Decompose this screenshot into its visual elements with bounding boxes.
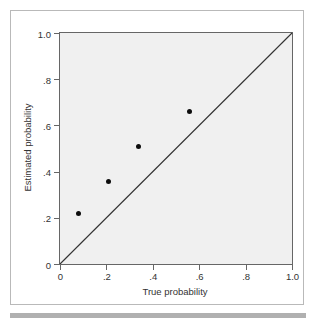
x-axis-tick-label: 0 [58, 271, 63, 282]
y-axis-label-text: Estimated probability [22, 103, 33, 191]
figure-card: Estimated probability 0.2.4.6.81.0 0.2.4… [10, 10, 304, 305]
y-axis-tick-label: .8 [43, 74, 51, 85]
data-point [76, 211, 81, 216]
bottom-rule-divider [10, 313, 306, 318]
y-axis-tick: .8 [54, 79, 60, 80]
x-axis-label: True probability [59, 286, 291, 297]
x-axis-tick: .6 [199, 264, 200, 270]
x-axis-tick-label: .4 [149, 271, 157, 282]
x-axis-tick-label: .8 [242, 271, 250, 282]
y-axis-tick: 1.0 [54, 33, 60, 34]
y-axis-tick-label: 1.0 [38, 28, 51, 39]
y-axis-tick-label: .6 [43, 120, 51, 131]
x-axis-tick: .2 [106, 264, 107, 270]
x-axis-tick: .8 [246, 264, 247, 270]
x-axis-tick: 1.0 [292, 264, 293, 270]
y-axis-tick: .4 [54, 172, 60, 173]
scatter-chart: Estimated probability 0.2.4.6.81.0 0.2.4… [11, 11, 305, 304]
x-axis-tick-label: .6 [196, 271, 204, 282]
x-axis-tick-label: .2 [103, 271, 111, 282]
y-axis-tick: .6 [54, 125, 60, 126]
identity-reference-line [60, 33, 292, 264]
y-axis-tick-label: 0 [46, 259, 51, 270]
x-axis-tick-label: 1.0 [286, 271, 299, 282]
y-axis-tick-label: .4 [43, 167, 51, 178]
x-axis-tick: .4 [153, 264, 154, 270]
y-axis-label: Estimated probability [21, 32, 33, 263]
y-axis-tick: .2 [54, 218, 60, 219]
y-axis-tick-label: .2 [43, 213, 51, 224]
x-axis-tick: 0 [60, 264, 61, 270]
plot-area: 0.2.4.6.81.0 0.2.4.6.81.0 [59, 32, 293, 265]
